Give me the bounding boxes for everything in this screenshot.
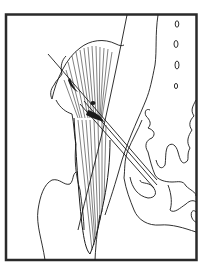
- hip-illustration: [0, 0, 208, 273]
- anatomical-figure: [0, 0, 208, 273]
